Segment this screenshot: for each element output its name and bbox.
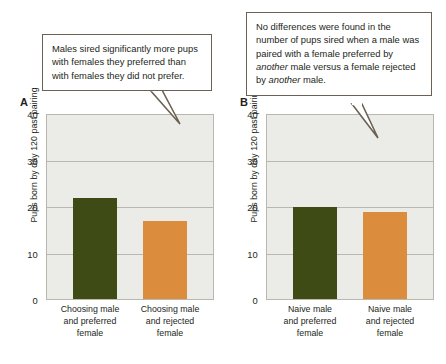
x-label-line: female bbox=[157, 328, 183, 338]
panel-a-x-labels: Choosing male and preferred female Choos… bbox=[46, 304, 214, 350]
x-label-line: and rejected bbox=[146, 316, 194, 326]
bar-naive-preferred[interactable] bbox=[293, 207, 337, 299]
panel-a-plot-area bbox=[46, 114, 214, 300]
y-tick-10: 10 bbox=[247, 248, 258, 259]
callout-text-run: No differences were found in the number … bbox=[256, 21, 419, 59]
x-label-naive-rejected: Naive male and rejected female bbox=[349, 304, 431, 340]
x-label-line: female bbox=[77, 328, 103, 338]
y-tick-20: 20 bbox=[27, 202, 38, 213]
y-tick-20: 20 bbox=[247, 202, 258, 213]
callout-panel-a: Males sired significantly more pups with… bbox=[42, 34, 212, 91]
bar-choosing-rejected[interactable] bbox=[143, 221, 187, 299]
x-label-line: and preferred bbox=[284, 316, 337, 326]
callout-panel-b: No differences were found in the number … bbox=[246, 12, 432, 96]
gridline-0 bbox=[47, 299, 213, 300]
x-label-line: Choosing male bbox=[141, 304, 200, 314]
panel-a-bars bbox=[47, 115, 213, 299]
y-tick-0: 0 bbox=[253, 295, 258, 306]
bar-naive-rejected[interactable] bbox=[363, 212, 407, 299]
y-tick-40: 40 bbox=[27, 109, 38, 120]
x-label-line: female bbox=[297, 328, 323, 338]
panel-a-letter: A bbox=[20, 96, 28, 108]
y-tick-30: 30 bbox=[247, 155, 258, 166]
callout-text-run: male. bbox=[300, 74, 326, 85]
x-label-line: and preferred bbox=[64, 316, 117, 326]
x-label-line: female bbox=[377, 328, 403, 338]
chart-panel-b: Pups born by day 120 past pairing 0 10 2… bbox=[228, 114, 440, 310]
panel-b-plot-area bbox=[266, 114, 434, 300]
chart-panel-a: Pups born by day 120 past pairing 0 10 2… bbox=[8, 114, 220, 310]
callout-tail-a bbox=[150, 90, 210, 126]
x-label-choosing-preferred: Choosing male and preferred female bbox=[49, 304, 131, 340]
y-tick-10: 10 bbox=[27, 248, 38, 259]
x-label-line: Naive male bbox=[368, 304, 412, 314]
panel-b-x-labels: Naive male and preferred female Naive ma… bbox=[266, 304, 434, 350]
x-label-choosing-rejected: Choosing male and rejected female bbox=[129, 304, 211, 340]
x-label-line: Naive male bbox=[288, 304, 332, 314]
emphasis-text: another bbox=[256, 61, 288, 72]
gridline-0 bbox=[267, 299, 433, 300]
figure-container: Males sired significantly more pups with… bbox=[0, 0, 446, 364]
panel-b-bars bbox=[267, 115, 433, 299]
emphasis-text: another bbox=[269, 74, 301, 85]
y-tick-40: 40 bbox=[247, 109, 258, 120]
x-label-naive-preferred: Naive male and preferred female bbox=[269, 304, 351, 340]
x-label-line: Choosing male bbox=[61, 304, 120, 314]
panel-b-letter: B bbox=[240, 96, 248, 108]
x-label-line: and rejected bbox=[366, 316, 414, 326]
y-tick-0: 0 bbox=[33, 295, 38, 306]
y-tick-30: 30 bbox=[27, 155, 38, 166]
panel-b-y-ticks: 0 10 20 30 40 bbox=[228, 114, 262, 300]
bar-choosing-preferred[interactable] bbox=[73, 198, 117, 299]
panel-a-y-ticks: 0 10 20 30 40 bbox=[8, 114, 42, 300]
callout-tail-b bbox=[352, 104, 412, 140]
